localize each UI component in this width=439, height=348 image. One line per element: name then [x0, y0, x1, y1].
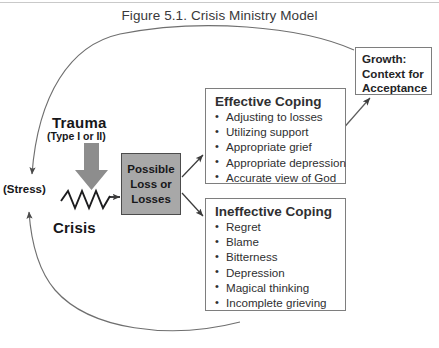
list-item: Accurate view of God: [215, 170, 345, 185]
trauma-thick-down-arrow: [75, 143, 108, 190]
list-item: Magical thinking: [215, 280, 345, 295]
ineffective-coping-list: Regret Blame Bitterness Depression Magic…: [215, 219, 345, 310]
crisis-zigzag-icon: [61, 191, 110, 208]
list-item: Regret: [215, 219, 345, 234]
growth-line-3: Acceptance: [362, 81, 431, 96]
crisis-label: Crisis: [53, 219, 96, 236]
list-item: Utilizing support: [215, 124, 345, 139]
trauma-type-label: (Type I or II): [47, 130, 106, 142]
ineffective-coping-heading: Ineffective Coping: [215, 204, 345, 219]
possible-loss-box: Possible Loss or Losses: [121, 153, 181, 215]
loss-to-ineffective-arrow: [182, 193, 203, 216]
loss-to-effective-arrow: [182, 155, 203, 177]
possible-loss-label: Possible Loss or Losses: [127, 162, 174, 207]
list-item: Depression: [215, 265, 345, 280]
trauma-label: Trauma: [52, 114, 107, 131]
effective-coping-box: Effective Coping Adjusting to losses Uti…: [205, 88, 346, 184]
possible-loss-line-1: Possible: [127, 163, 174, 175]
list-item: Appropriate grief: [215, 139, 345, 154]
possible-loss-line-2: Loss or: [130, 178, 172, 190]
list-item: Adjusting to losses: [215, 109, 345, 124]
stress-label: (Stress): [3, 183, 46, 195]
growth-line-1: Growth:: [362, 52, 431, 67]
list-item: Incomplete grieving: [215, 295, 345, 310]
list-item: Bitterness: [215, 249, 345, 264]
effective-coping-list: Adjusting to losses Utilizing support Ap…: [215, 109, 345, 185]
growth-line-2: Context for: [362, 67, 431, 82]
growth-box: Growth: Context for Acceptance: [355, 47, 432, 95]
figure-container: Figure 5.1. Crisis Ministry Model Traum: [0, 0, 439, 348]
possible-loss-line-3: Losses: [131, 193, 171, 205]
ineffective-coping-box: Ineffective Coping Regret Blame Bitterne…: [205, 198, 346, 311]
list-item: Appropriate depression: [215, 155, 345, 170]
effective-coping-heading: Effective Coping: [215, 94, 345, 109]
list-item: Blame: [215, 234, 345, 249]
